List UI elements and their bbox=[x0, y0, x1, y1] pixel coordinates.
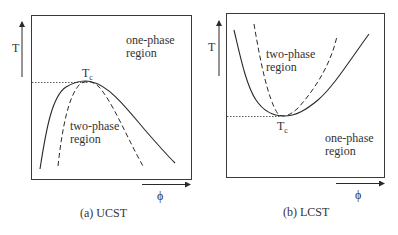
lcst-x-axis-label: ϕ bbox=[355, 189, 361, 202]
ucst-caption: (a) UCST bbox=[80, 206, 127, 221]
lcst-two-phase-line2: region bbox=[266, 61, 315, 74]
phase-diagrams-canvas bbox=[0, 0, 398, 235]
lcst-y-axis-label: T bbox=[208, 41, 215, 54]
ucst-two-phase-label: two-phase region bbox=[70, 120, 119, 146]
lcst-two-phase-label: two-phase region bbox=[266, 48, 315, 74]
lcst-caption: (b) LCST bbox=[283, 205, 329, 220]
ucst-one-phase-line2: region bbox=[126, 47, 175, 60]
lcst-panel bbox=[219, 14, 385, 184]
lcst-critical-point-label: Tc bbox=[277, 120, 288, 134]
lcst-critical-point-sub: c bbox=[284, 126, 288, 135]
ucst-one-phase-label: one-phase region bbox=[126, 34, 175, 60]
lcst-one-phase-label: one-phase region bbox=[325, 132, 374, 158]
ucst-y-axis-label: T bbox=[12, 42, 19, 55]
ucst-two-phase-line2: region bbox=[70, 133, 119, 146]
ucst-x-axis-label: ϕ bbox=[157, 190, 163, 203]
ucst-critical-point-sub: c bbox=[89, 73, 93, 82]
lcst-one-phase-line2: region bbox=[325, 145, 374, 158]
ucst-critical-point-label: Tc bbox=[82, 67, 93, 81]
